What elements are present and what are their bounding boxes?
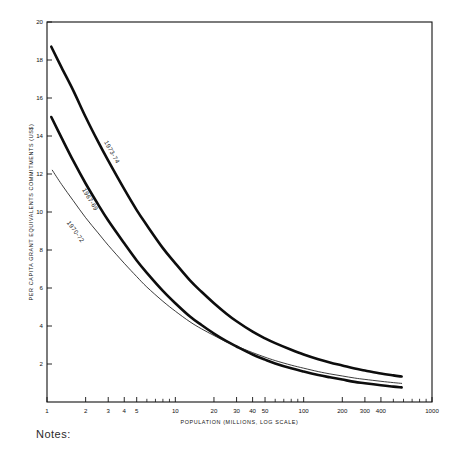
x-tick-label: 40 bbox=[249, 407, 256, 414]
plot-frame bbox=[47, 22, 432, 402]
y-tick-label: 8 bbox=[40, 246, 44, 253]
x-tick-label: 3 bbox=[107, 407, 111, 414]
x-tick-label: 2 bbox=[84, 407, 88, 414]
x-tick-label: 50 bbox=[262, 407, 269, 414]
y-tick-label: 4 bbox=[40, 322, 44, 329]
y-tick-label: 6 bbox=[40, 284, 44, 291]
x-tick-label: 1000 bbox=[425, 407, 439, 414]
y-tick-label: 12 bbox=[36, 170, 43, 177]
x-axis-title: POPULATION (MILLIONS, LOG SCALE) bbox=[181, 419, 299, 425]
y-tick-label: 16 bbox=[36, 94, 43, 101]
notes-label: Notes: bbox=[36, 428, 71, 440]
x-tick-label: 100 bbox=[299, 407, 310, 414]
y-tick-label: 2 bbox=[40, 360, 44, 367]
figure-container: 1234510203040501002003004001000 24681012… bbox=[0, 0, 456, 454]
y-tick-label: 10 bbox=[36, 208, 43, 215]
y-tick-label: 14 bbox=[36, 132, 43, 139]
x-tick-label: 30 bbox=[233, 407, 240, 414]
x-tick-label: 20 bbox=[211, 407, 218, 414]
y-tick-label: 18 bbox=[36, 56, 43, 63]
chart-plot: 1234510203040501002003004001000 24681012… bbox=[0, 0, 456, 454]
y-tick-label: 20 bbox=[36, 18, 43, 25]
x-tick-label: 10 bbox=[172, 407, 179, 414]
x-tick-label: 1 bbox=[45, 407, 49, 414]
x-tick-label: 5 bbox=[135, 407, 139, 414]
x-tick-label: 300 bbox=[360, 407, 371, 414]
x-tick-label: 400 bbox=[376, 407, 387, 414]
x-tick-label: 4 bbox=[123, 407, 127, 414]
x-tick-label: 200 bbox=[337, 407, 348, 414]
y-axis-title: PER CAPITA GRANT EQUIVALENTS COMMITMENTS… bbox=[28, 124, 34, 301]
